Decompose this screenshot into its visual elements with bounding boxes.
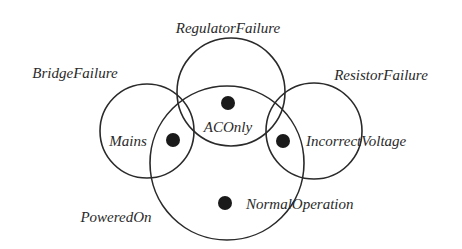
- label-mains: Mains: [108, 133, 147, 149]
- set-circle-bridge: [100, 84, 194, 178]
- state-dot-incorrect: [276, 134, 290, 148]
- label-ac-only: ACOnly: [203, 119, 253, 135]
- set-circle-resistor: [266, 83, 362, 179]
- euler-diagram: RegulatorFailure BridgeFailure ResistorF…: [0, 0, 462, 249]
- label-resistor-failure: ResistorFailure: [333, 67, 428, 83]
- label-normal-operation: NormalOperation: [245, 196, 354, 212]
- state-dot-aconly: [221, 96, 235, 110]
- label-bridge-failure: BridgeFailure: [32, 65, 118, 81]
- state-labels: ACOnly Mains IncorrectVoltage NormalOper…: [108, 119, 406, 212]
- state-dot-mains: [166, 133, 180, 147]
- label-incorrect-voltage: IncorrectVoltage: [305, 133, 407, 149]
- label-regulator-failure: RegulatorFailure: [175, 20, 281, 36]
- label-powered-on: PoweredOn: [79, 209, 151, 225]
- state-dot-normal: [218, 196, 232, 210]
